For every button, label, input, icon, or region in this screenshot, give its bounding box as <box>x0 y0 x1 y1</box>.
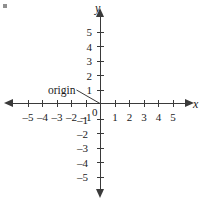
y-axis-down-arrow-icon <box>96 189 104 198</box>
y-tick-mark <box>97 46 104 47</box>
y-tick-mark <box>97 177 104 178</box>
y-tick-label: –5 <box>70 172 88 183</box>
x-axis-left-arrow-icon <box>4 99 13 107</box>
y-tick-mark <box>97 133 104 134</box>
x-tick-mark <box>28 100 29 107</box>
scan-artifact-mark <box>3 4 7 8</box>
y-tick-label: 2 <box>74 71 92 82</box>
y-tick-label: –4 <box>70 158 88 169</box>
y-tick-label: –3 <box>70 143 88 154</box>
y-tick-mark <box>97 148 104 149</box>
y-tick-mark <box>97 162 104 163</box>
x-axis-label: x <box>193 98 198 110</box>
x-tick-mark <box>158 100 159 107</box>
y-tick-mark <box>97 75 104 76</box>
x-tick-mark <box>129 100 130 107</box>
y-axis-label: y <box>95 2 100 14</box>
x-tick-label: 5 <box>165 112 181 123</box>
x-tick-mark <box>42 100 43 107</box>
y-tick-mark <box>97 119 104 120</box>
x-tick-mark <box>144 100 145 107</box>
origin-tick-label: 0 <box>92 107 98 118</box>
x-tick-mark <box>115 100 116 107</box>
y-tick-mark <box>97 61 104 62</box>
x-tick-mark <box>71 100 72 107</box>
coordinate-plane-figure: –5 –4 –3 –2 –1 1 2 3 4 5 5 4 3 2 1 –1 –2… <box>0 0 202 202</box>
origin-annotation-label: origin <box>48 85 75 97</box>
y-tick-label: –1 <box>70 115 88 126</box>
y-tick-label: 3 <box>74 56 92 67</box>
x-tick-mark <box>57 100 58 107</box>
y-tick-mark <box>97 32 104 33</box>
y-tick-label: 5 <box>74 27 92 38</box>
x-tick-mark <box>173 100 174 107</box>
y-tick-label: 4 <box>74 42 92 53</box>
origin-leader-line <box>76 89 102 105</box>
y-tick-label: –2 <box>70 129 88 140</box>
